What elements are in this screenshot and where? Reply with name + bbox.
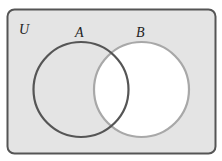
set-b-label: B bbox=[136, 25, 145, 40]
universe-label: U bbox=[19, 22, 30, 37]
set-a-label: A bbox=[74, 25, 84, 40]
venn-diagram: U A B bbox=[0, 0, 222, 161]
